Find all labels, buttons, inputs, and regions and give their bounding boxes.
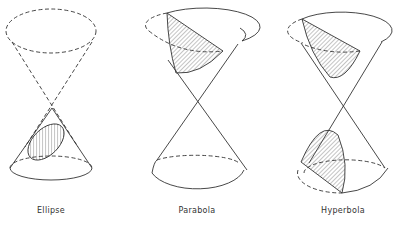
- parabola-section: [167, 13, 223, 73]
- hyperbola-upper-section: [302, 19, 360, 78]
- parabola-label: Parabola: [178, 206, 215, 215]
- hyperbola-lower-section: [301, 130, 345, 193]
- ellipse-label: Ellipse: [37, 206, 65, 215]
- hyperbola-cone: [288, 12, 392, 193]
- conic-sections-diagram: [0, 0, 393, 229]
- parabola-cone: [145, 8, 260, 189]
- hyperbola-label: Hyperbola: [321, 206, 365, 215]
- ellipse-cone: [6, 9, 96, 180]
